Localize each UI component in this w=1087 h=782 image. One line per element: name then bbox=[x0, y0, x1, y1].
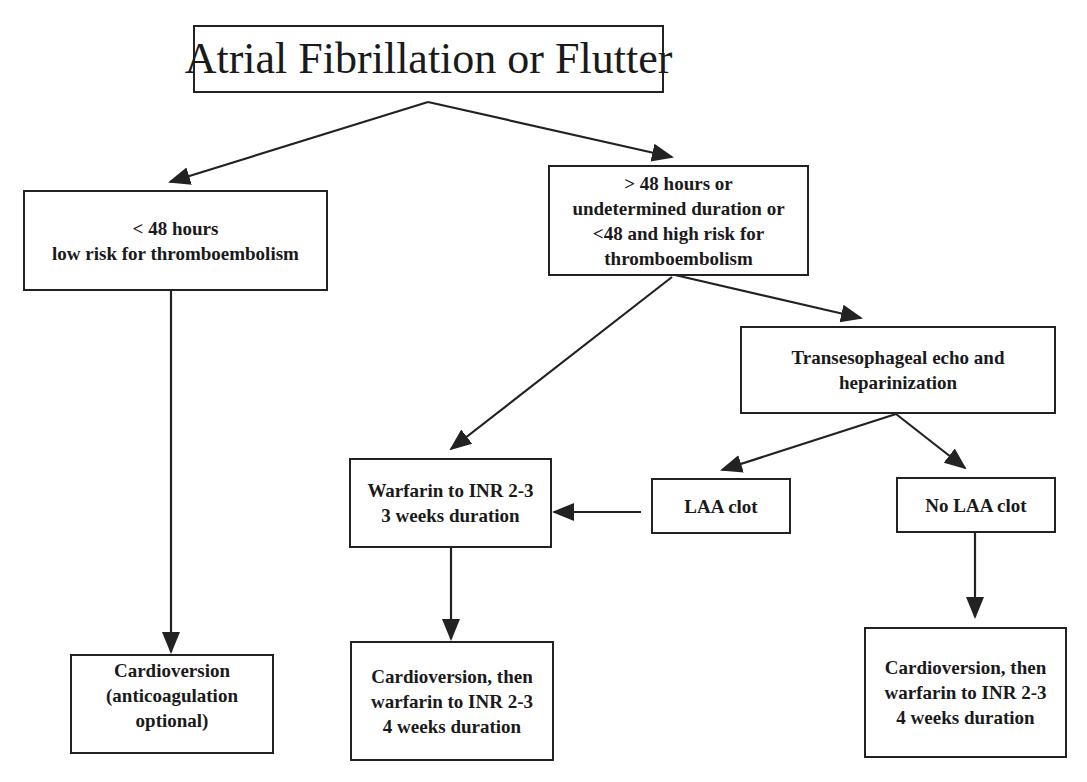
edge-root-to-gt48 bbox=[428, 102, 672, 157]
edge-tee-to-no-laa-clot bbox=[896, 414, 965, 468]
node-label: 4 weeks duration bbox=[896, 705, 1034, 730]
node-label: (anticoagulation bbox=[106, 683, 238, 708]
edge-root-to-lt48 bbox=[170, 102, 428, 182]
node-transesophageal-echo: Transesophageal echo and heparinization bbox=[740, 326, 1056, 414]
edge-gt48-to-warfarin bbox=[451, 277, 672, 449]
node-label: Atrial Fibrillation or Flutter bbox=[185, 34, 673, 84]
node-label: optional) bbox=[136, 708, 209, 733]
node-label: <48 and high risk for bbox=[593, 221, 764, 246]
node-label: 4 weeks duration bbox=[383, 714, 521, 739]
node-label: Warfarin to INR 2-3 bbox=[367, 478, 533, 503]
node-greater-than-48-hours: > 48 hours or undetermined duration or <… bbox=[548, 165, 809, 276]
node-laa-clot: LAA clot bbox=[651, 478, 791, 534]
node-label: LAA clot bbox=[684, 494, 757, 519]
node-label: thromboembolism bbox=[604, 246, 752, 271]
node-label: warfarin to INR 2-3 bbox=[371, 689, 533, 714]
node-label: low risk for thromboembolism bbox=[52, 241, 299, 266]
node-cardioversion-optional: Cardioversion (anticoagulation optional) bbox=[70, 654, 274, 754]
node-label: Cardioversion bbox=[114, 658, 230, 683]
node-label: Cardioversion, then bbox=[371, 664, 533, 689]
node-label: < 48 hours bbox=[133, 216, 219, 241]
node-label: undetermined duration or bbox=[572, 196, 784, 221]
node-label: Cardioversion, then bbox=[885, 655, 1047, 680]
node-label: > 48 hours or bbox=[624, 171, 732, 196]
node-label: Transesophageal echo and bbox=[792, 345, 1005, 370]
node-label: No LAA clot bbox=[925, 493, 1026, 518]
node-cardioversion-warfarin-mid: Cardioversion, then warfarin to INR 2-3 … bbox=[350, 641, 554, 761]
node-no-laa-clot: No LAA clot bbox=[896, 477, 1056, 533]
node-cardioversion-warfarin-right: Cardioversion, then warfarin to INR 2-3 … bbox=[864, 627, 1067, 758]
edge-gt48-to-tee bbox=[675, 275, 861, 318]
node-label: 3 weeks duration bbox=[381, 503, 519, 528]
node-atrial-fibrillation-or-flutter: Atrial Fibrillation or Flutter bbox=[193, 25, 664, 93]
edge-tee-to-laa-clot bbox=[722, 414, 896, 470]
node-label: heparinization bbox=[839, 370, 957, 395]
node-less-than-48-hours: < 48 hours low risk for thromboembolism bbox=[23, 190, 328, 291]
node-label: warfarin to INR 2-3 bbox=[884, 680, 1046, 705]
node-warfarin-3-weeks: Warfarin to INR 2-3 3 weeks duration bbox=[349, 458, 552, 548]
